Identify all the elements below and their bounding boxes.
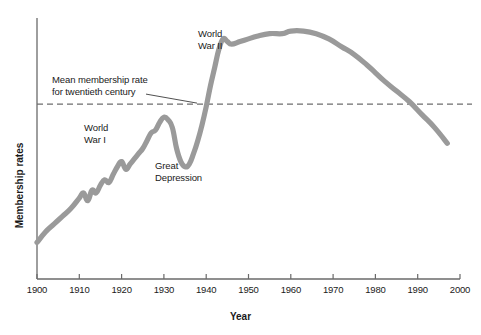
chart-figure: 0 Membership rates Year World War II Mea… [0, 0, 481, 335]
x-tick-label-1950: 1950 [229, 284, 269, 295]
x-tick-label-1970: 1970 [313, 284, 353, 295]
x-tick-label-1960: 1960 [271, 284, 311, 295]
x-tick-label-1980: 1980 [355, 284, 395, 295]
x-axis-title: Year [0, 311, 481, 322]
x-tick-label-1930: 1930 [144, 284, 184, 295]
x-tick-label-1920: 1920 [102, 284, 142, 295]
annotation-great-depression: Great Depression [155, 160, 202, 183]
y-axis-title: Membership rates [14, 126, 25, 246]
x-tick-label-1900: 1900 [17, 284, 57, 295]
x-tick-label-2000: 2000 [440, 284, 480, 295]
x-tick-label-1990: 1990 [398, 284, 438, 295]
annotation-world-war-i: World War I [84, 122, 108, 145]
x-axis-ticks [37, 274, 460, 279]
x-tick-label-1940: 1940 [186, 284, 226, 295]
annotation-leader-line [146, 94, 197, 103]
annotation-world-war-ii: World War II [198, 28, 222, 51]
x-tick-label-1910: 1910 [59, 284, 99, 295]
annotation-mean-membership-rate: Mean membership rate for twentieth centu… [52, 74, 148, 97]
